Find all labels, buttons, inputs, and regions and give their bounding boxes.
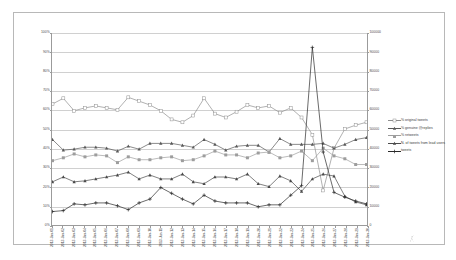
- tick-mark: [367, 207, 369, 208]
- tick-mark: [150, 226, 151, 228]
- x-axis-tick-label: 2013-Jun-29: [356, 228, 359, 247]
- data-point-triangle-icon: [127, 144, 130, 147]
- data-point-square-filled-icon: [224, 153, 227, 156]
- data-point-square-open-icon: [192, 114, 195, 117]
- data-point-plus-icon: [116, 204, 120, 208]
- x-axis-tick-label: 2013-Jun-17: [226, 228, 229, 247]
- y-axis-left-tick-label: 20%: [43, 186, 50, 189]
- scan-artifact: [406, 235, 418, 242]
- data-point-square-filled-icon: [116, 161, 119, 164]
- series-line: [52, 172, 366, 205]
- tick-mark: [367, 72, 369, 73]
- data-point-square-open-icon: [138, 100, 141, 103]
- x-axis-tick-label: 2013-Jun-09: [138, 228, 141, 247]
- chart-legend: % original tweets % genuine @replies % r…: [388, 117, 456, 155]
- y-axis-right-tick-label: 20000: [369, 186, 379, 189]
- tick-mark: [367, 187, 369, 188]
- data-point-triangle-icon: [322, 172, 325, 175]
- data-point-square-open-icon: [148, 104, 151, 107]
- x-axis-tick-label: 2013-Jun-24: [302, 228, 305, 247]
- data-point-square-filled-icon: [365, 163, 367, 166]
- legend-item-label: % genuine @replies: [401, 127, 433, 131]
- y-axis-right-tick-label: 80000: [369, 70, 379, 73]
- data-point-plus-icon: [52, 210, 54, 214]
- tick-mark: [280, 226, 281, 228]
- chart-series-canvas: [52, 33, 367, 225]
- data-point-triangle-icon: [278, 174, 281, 177]
- data-point-plus-icon: [332, 191, 336, 195]
- data-point-square-filled-icon: [83, 155, 86, 158]
- legend-item[interactable]: % retweets: [388, 132, 456, 140]
- data-point-plus-icon: [83, 203, 87, 207]
- data-point-square-filled-icon: [159, 156, 162, 159]
- legend-item[interactable]: N. of tweets from lead users: [388, 140, 456, 148]
- series-line: [52, 47, 366, 211]
- data-point-square-filled-icon: [257, 152, 260, 155]
- data-point-square-open-icon: [257, 106, 260, 109]
- data-point-triangle-icon: [202, 138, 205, 141]
- legend-item[interactable]: % original tweets: [388, 117, 456, 125]
- tick-mark: [367, 91, 369, 92]
- legend-item-label: N. of tweets from lead users: [401, 142, 445, 146]
- tick-mark: [367, 52, 369, 53]
- x-axis-tick-label: 2013-Jun-20: [258, 228, 261, 247]
- tick-mark: [106, 226, 107, 228]
- y-axis-left-tick-label: 80%: [43, 70, 50, 73]
- tick-mark: [368, 226, 369, 228]
- legend-item[interactable]: % genuine @replies: [388, 125, 456, 133]
- tick-mark: [160, 226, 161, 228]
- tick-mark: [62, 226, 63, 228]
- data-point-square-open-icon: [73, 109, 76, 112]
- tick-mark: [259, 226, 260, 228]
- data-point-square-filled-icon: [73, 152, 76, 155]
- data-point-triangle-icon: [52, 138, 54, 141]
- data-point-plus-icon: [62, 209, 66, 213]
- x-axis-tick-label: 2013-Jun-28: [345, 228, 348, 247]
- data-point-triangle-icon: [181, 172, 184, 175]
- data-point-square-filled-icon: [246, 156, 249, 159]
- data-point-square-filled-icon: [354, 163, 357, 166]
- y-axis-right-tick-label: 10000: [369, 205, 379, 208]
- data-point-square-filled-icon: [343, 157, 346, 160]
- legend-item[interactable]: tweets: [388, 147, 456, 155]
- legend-marker-triangle-icon: [388, 140, 401, 147]
- tick-mark: [84, 226, 85, 228]
- data-point-triangle-icon: [192, 180, 195, 183]
- data-point-square-filled-icon: [94, 153, 97, 156]
- y-axis-right-tick-label: 40000: [369, 147, 379, 150]
- data-point-square-filled-icon: [105, 154, 108, 157]
- tick-mark: [367, 110, 369, 111]
- legend-marker-square-open-icon: [388, 117, 401, 124]
- tick-mark: [367, 149, 369, 150]
- data-point-square-open-icon: [278, 111, 281, 114]
- data-point-square-open-icon: [159, 109, 162, 112]
- data-point-square-open-icon: [52, 103, 54, 106]
- data-point-plus-icon: [311, 46, 315, 50]
- series-4: [52, 46, 367, 214]
- series-1: [52, 136, 367, 154]
- tick-mark: [95, 226, 96, 228]
- data-point-square-open-icon: [268, 104, 271, 107]
- data-point-square-filled-icon: [62, 156, 65, 159]
- x-axis-tick-label: 2013-Jun-07: [117, 228, 120, 247]
- x-axis-tick-label: 2013-Jun-26: [324, 228, 327, 247]
- data-point-plus-icon: [235, 201, 239, 205]
- data-point-square-filled-icon: [311, 159, 314, 162]
- data-point-plus-icon: [213, 199, 217, 203]
- data-point-square-open-icon: [365, 121, 367, 124]
- tick-mark: [291, 226, 292, 228]
- x-axis-tick-label: 2013-Jun-08: [127, 228, 130, 247]
- legend-marker-square-filled-icon: [388, 132, 401, 139]
- data-point-square-filled-icon: [127, 155, 130, 158]
- tick-mark: [171, 226, 172, 228]
- x-axis-tick-label: 2013-Jun-30: [367, 228, 370, 247]
- data-point-square-open-icon: [393, 119, 396, 122]
- tick-mark: [237, 226, 238, 228]
- tick-mark: [215, 226, 216, 228]
- chart-frame: 0%010%1000020%2000030%3000040%4000050%50…: [13, 12, 445, 245]
- tick-mark: [204, 226, 205, 228]
- data-point-triangle-icon: [62, 175, 65, 178]
- tick-mark: [139, 226, 140, 228]
- x-axis-tick-label: 2013-Jun-03: [73, 228, 76, 247]
- data-point-square-filled-icon: [333, 154, 336, 157]
